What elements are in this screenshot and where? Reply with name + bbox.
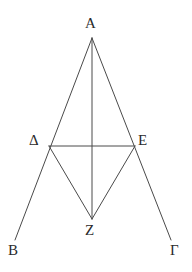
point-label-delta: Δ — [29, 133, 39, 148]
point-label-a: A — [85, 16, 96, 31]
point-label-z: Z — [85, 223, 94, 238]
segment-delta-to-z — [49, 146, 92, 219]
point-label-b: B — [8, 243, 18, 258]
segment-a-to-b — [15, 38, 92, 240]
point-label-gamma: Γ — [170, 243, 179, 258]
geometry-figure: A Δ E Z B Γ — [0, 0, 192, 272]
point-label-e: E — [138, 133, 147, 148]
segment-a-to-gamma — [92, 38, 171, 240]
segment-e-to-z — [92, 146, 135, 219]
